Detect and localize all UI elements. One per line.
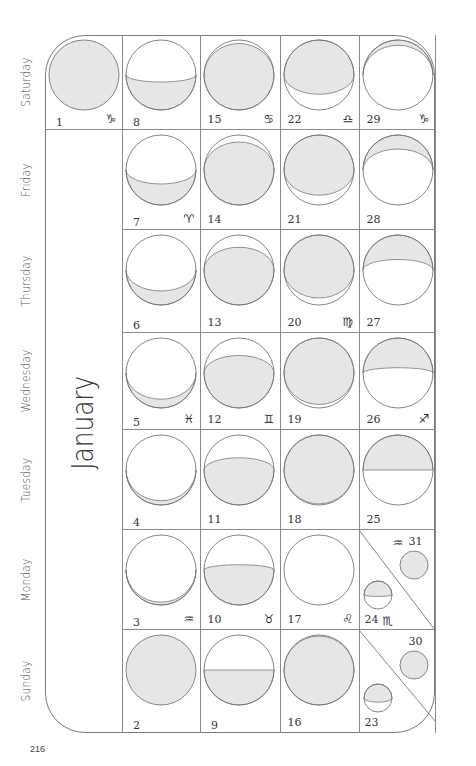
calendar-page: SundayMondayTuesdayWednesdayThursdayFrid… — [0, 0, 476, 766]
weekday-thursday: Thursday — [18, 241, 33, 323]
moon-phase-icon — [362, 434, 434, 506]
day-cell[interactable]: 20♍ — [280, 230, 359, 333]
moon-phase-icon — [363, 683, 393, 713]
day-number: 25 — [367, 513, 381, 526]
moon-phase-icon — [203, 534, 275, 606]
day-cell[interactable]: 11 — [200, 430, 280, 530]
weekday-tuesday: Tuesday — [18, 439, 33, 521]
day-cell[interactable]: 3♒ — [122, 530, 200, 630]
moon-phase-icon — [125, 534, 197, 606]
day-number: 11 — [208, 513, 222, 526]
day-number: 13 — [208, 316, 222, 329]
zodiac-icon: ♉ — [264, 612, 275, 626]
day-cell[interactable]: 5♓ — [122, 333, 200, 430]
day-cell[interactable]: 19 — [280, 333, 359, 430]
zodiac-icon: ♑ — [419, 112, 430, 126]
zodiac-icon: ♒ — [184, 612, 195, 626]
day-cell[interactable]: 29♑ — [359, 35, 435, 130]
day-cell[interactable]: 2 — [122, 630, 200, 733]
day-cell[interactable]: 27 — [359, 230, 435, 333]
moon-phase-icon — [203, 634, 275, 706]
day-cell[interactable]: 15♋ — [200, 35, 280, 130]
moon-phase-icon — [125, 634, 197, 706]
day-cell[interactable]: 17♌ — [280, 530, 359, 630]
moon-phase-icon — [125, 337, 197, 409]
day-cell[interactable]: 9 — [200, 630, 280, 733]
day-number: 12 — [208, 413, 222, 426]
day-number: 23 — [365, 716, 379, 729]
day-number: 14 — [208, 213, 222, 226]
day-cell[interactable]: 7♈ — [122, 130, 200, 230]
moon-phase-icon — [48, 39, 120, 111]
moon-phase-icon — [283, 634, 355, 706]
day-number: 31 — [409, 535, 423, 548]
day-cell[interactable]: 1♑ — [45, 35, 122, 130]
moon-phase-icon — [399, 650, 429, 680]
moon-phase-icon — [125, 39, 197, 111]
day-number: 8 — [133, 116, 140, 129]
day-cell[interactable]: 25 — [359, 430, 435, 530]
day-number: 10 — [208, 613, 222, 626]
day-cell[interactable]: 6 — [122, 230, 200, 333]
grid-line — [435, 35, 436, 733]
day-cell[interactable]: 8 — [122, 35, 200, 130]
split-day-cell[interactable]: 24♏31♒ — [359, 530, 435, 630]
day-number: 16 — [288, 716, 302, 729]
page-number: 216 — [30, 744, 45, 754]
day-cell[interactable]: 13 — [200, 230, 280, 333]
day-cell[interactable]: 28 — [359, 130, 435, 230]
moon-phase-icon — [283, 39, 355, 111]
zodiac-icon: ♊ — [264, 412, 275, 426]
zodiac-icon: ♐ — [419, 412, 430, 426]
moon-phase-icon — [203, 39, 275, 111]
day-number: 28 — [367, 213, 381, 226]
day-cell[interactable]: 14 — [200, 130, 280, 230]
zodiac-icon: ♈ — [184, 212, 195, 226]
weekday-saturday: Saturday — [18, 42, 33, 124]
day-number: 6 — [133, 319, 140, 332]
day-cell[interactable]: 21 — [280, 130, 359, 230]
split-day-cell[interactable]: 2330 — [359, 630, 435, 733]
weekday-wednesday: Wednesday — [18, 341, 33, 423]
moon-phase-icon — [125, 134, 197, 206]
moon-phase-icon — [203, 234, 275, 306]
moon-phase-icon — [362, 234, 434, 306]
moon-phase-icon — [203, 434, 275, 506]
day-number: 27 — [367, 316, 381, 329]
day-number: 18 — [288, 513, 302, 526]
weekday-friday: Friday — [18, 139, 33, 221]
day-cell[interactable]: 26♐ — [359, 333, 435, 430]
day-number: 20 — [288, 316, 302, 329]
zodiac-icon: ♓ — [184, 412, 195, 426]
day-cell[interactable]: 16 — [280, 630, 359, 733]
day-number: 3 — [133, 616, 140, 629]
day-number: 9 — [211, 719, 218, 732]
zodiac-icon: ♏ — [383, 614, 394, 628]
day-number: 4 — [133, 516, 140, 529]
day-number: 26 — [367, 413, 381, 426]
moon-phase-icon — [125, 434, 197, 506]
zodiac-icon: ♋ — [264, 112, 275, 126]
zodiac-icon: ♑ — [106, 112, 117, 126]
zodiac-icon: ♌ — [343, 612, 354, 626]
weekday-sunday: Sunday — [18, 641, 33, 723]
moon-phase-icon — [283, 534, 355, 606]
day-cell[interactable]: 4 — [122, 430, 200, 530]
moon-phase-icon — [283, 434, 355, 506]
day-cell[interactable]: 22♎ — [280, 35, 359, 130]
moon-phase-icon — [283, 134, 355, 206]
day-number: 7 — [133, 216, 140, 229]
day-number: 22 — [288, 113, 302, 126]
day-cell[interactable]: 10♉ — [200, 530, 280, 630]
day-number: 17 — [288, 613, 302, 626]
zodiac-icon: ♍ — [343, 315, 354, 329]
moon-phase-icon — [283, 234, 355, 306]
day-number: 21 — [288, 213, 302, 226]
zodiac-icon: ♒ — [393, 536, 404, 550]
weekday-monday: Monday — [18, 539, 33, 621]
moon-phase-icon — [399, 550, 429, 580]
day-cell[interactable]: 12♊ — [200, 333, 280, 430]
day-number: 24 — [365, 613, 379, 626]
day-cell[interactable]: 18 — [280, 430, 359, 530]
moon-phase-icon — [203, 337, 275, 409]
